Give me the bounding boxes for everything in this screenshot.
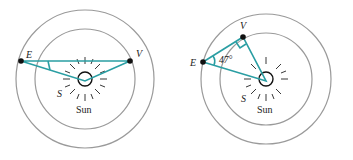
sun-label: Sun <box>76 104 92 115</box>
angle-arc <box>213 56 215 65</box>
venus-point <box>240 34 246 40</box>
venus-label: V <box>136 48 144 59</box>
angle-label: 47° <box>219 55 233 65</box>
venus-label: V <box>240 20 248 31</box>
earth-label: E <box>189 57 196 68</box>
sun-label: Sun <box>257 104 273 115</box>
earth-point <box>18 58 24 64</box>
earth-label: E <box>25 49 32 60</box>
sun-point-label: S <box>57 88 62 99</box>
left-diagram: E V S Sun <box>16 10 154 148</box>
right-diagram: E V 47° S Sun <box>189 14 331 144</box>
orbit-diagrams: E V S Sun E V 47° S Su <box>0 0 353 160</box>
sun-point-label: S <box>241 93 246 104</box>
sun-icon <box>63 57 107 101</box>
sun-icon <box>244 57 288 101</box>
earth-point <box>200 59 206 65</box>
triangle-evs <box>203 37 266 81</box>
angle-arc <box>48 61 50 70</box>
right-angle-marker <box>236 42 246 48</box>
venus-point <box>127 58 133 64</box>
